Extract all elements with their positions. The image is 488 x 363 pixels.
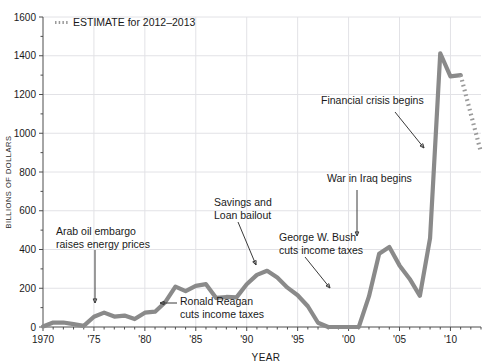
y-tick-label: 1600 (14, 12, 37, 23)
y-tick-label: 1000 (14, 128, 37, 139)
annotation-line: cuts income taxes (180, 308, 264, 320)
legend-label-estimate: ESTIMATE for 2012–2013 (73, 16, 196, 28)
y-axis-ticks (39, 17, 43, 327)
x-tick-label: '10 (444, 334, 457, 345)
annotation-group: Arab oil embargoraises energy pricesRona… (56, 94, 424, 320)
x-axis-ticks (43, 327, 481, 331)
x-tick-label: '00 (342, 334, 355, 345)
y-axis-tick-labels: 02004006008001000120014001600 (14, 12, 37, 333)
x-tick-label: '85 (189, 334, 202, 345)
deficit-line-chart: 02004006008001000120014001600 1970'75'80… (0, 0, 488, 363)
annotation: Financial crisis begins (321, 94, 424, 148)
annotation: George W. Bushcuts income taxes (279, 231, 363, 288)
y-tick-label: 1400 (14, 50, 37, 61)
x-tick-label: '90 (240, 334, 253, 345)
annotation-line: Arab oil embargo (56, 225, 136, 237)
annotation-line: raises energy prices (56, 238, 150, 250)
x-tick-label: '75 (87, 334, 100, 345)
y-tick-label: 1200 (14, 89, 37, 100)
annotation: Ronald Reagancuts income taxes (160, 295, 264, 320)
x-axis-title: YEAR (252, 352, 281, 363)
annotation-line: Financial crisis begins (321, 94, 424, 106)
x-tick-label: 1970 (32, 334, 55, 345)
y-tick-label: 0 (30, 322, 36, 333)
annotation-line: Loan bailout (214, 209, 271, 221)
series-line-estimate (461, 75, 481, 152)
annotation: Arab oil embargoraises energy prices (56, 225, 150, 303)
x-axis-tick-labels: 1970'75'80'85'90'95'00'05'10 (32, 334, 458, 345)
y-tick-label: 200 (19, 283, 36, 294)
annotation-line: Ronald Reagan (180, 295, 253, 307)
y-tick-label: 600 (19, 205, 36, 216)
x-tick-label: '05 (393, 334, 406, 345)
x-tick-label: '80 (138, 334, 151, 345)
annotation-line: Savings and (214, 196, 272, 208)
annotation: Savings andLoan bailout (214, 196, 272, 265)
y-axis-title: BILLIONS OF DOLLARS (4, 136, 13, 229)
chart-legend: ESTIMATE for 2012–2013 (55, 16, 196, 28)
y-tick-label: 400 (19, 244, 36, 255)
gridlines (43, 17, 481, 327)
y-tick-label: 800 (19, 167, 36, 178)
annotation-line: cuts income taxes (279, 244, 363, 256)
annotation-line: War in Iraq begins (327, 172, 412, 184)
chart-container: 02004006008001000120014001600 1970'75'80… (0, 0, 488, 363)
annotation-line: George W. Bush (279, 231, 356, 243)
x-tick-label: '95 (291, 334, 304, 345)
